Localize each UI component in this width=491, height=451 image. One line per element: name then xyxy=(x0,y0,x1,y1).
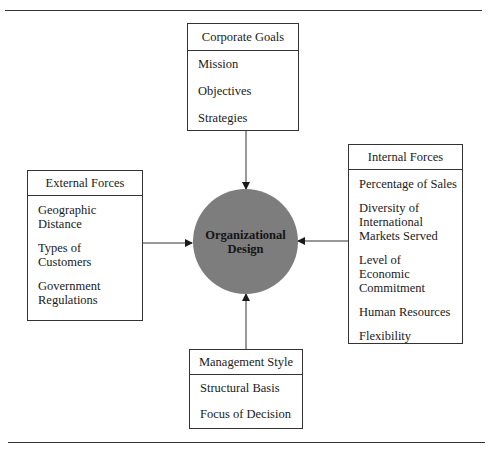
list-item: Geographic Distance xyxy=(38,203,118,231)
list-item: Objectives xyxy=(198,84,288,98)
internal-forces-box: Internal Forces Percentage of Sales Dive… xyxy=(348,144,463,344)
management-style-box: Management Style Structural Basis Focus … xyxy=(189,349,303,429)
external-forces-box: External Forces Geographic Distance Type… xyxy=(27,170,143,321)
list-item: Diversity of International Markets Serve… xyxy=(359,201,454,243)
list-item: Government Regulations xyxy=(38,279,118,307)
list-item: Focus of Decision xyxy=(200,407,292,421)
list-item: Mission xyxy=(198,57,288,71)
box-title: Management Style xyxy=(190,350,302,375)
list-item: Flexibility xyxy=(359,329,454,343)
list-item: Human Resources xyxy=(359,305,454,319)
list-item: Percentage of Sales xyxy=(359,177,454,191)
center-label-line1: Organizational xyxy=(205,228,286,242)
box-items: Geographic Distance Types of Customers G… xyxy=(28,203,142,307)
box-items: Percentage of Sales Diversity of Interna… xyxy=(349,177,462,343)
list-item: Strategies xyxy=(198,111,288,125)
box-title: Corporate Goals xyxy=(188,24,298,51)
box-items: Mission Objectives Strategies xyxy=(188,51,298,125)
corporate-goals-box: Corporate Goals Mission Objectives Strat… xyxy=(187,23,299,131)
center-label-line2: Design xyxy=(227,242,263,256)
box-title: Internal Forces xyxy=(349,145,462,170)
organizational-design-node: Organizational Design xyxy=(193,189,298,294)
list-item: Types of Customers xyxy=(38,241,108,269)
box-title: External Forces xyxy=(28,171,142,196)
list-item: Level of Economic Commitment xyxy=(359,253,454,295)
list-item: Structural Basis xyxy=(200,381,292,395)
box-items: Structural Basis Focus of Decision xyxy=(190,381,302,421)
